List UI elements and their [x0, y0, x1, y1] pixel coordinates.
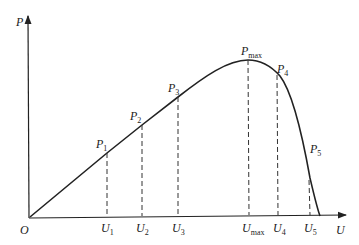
y-axis-label: P — [15, 15, 24, 29]
point-label-p2: P2 — [129, 109, 141, 125]
y-axis — [28, 16, 29, 218]
tick-label-umax: Umax — [242, 221, 264, 237]
tick-label-u1: U1 — [101, 221, 114, 237]
tick-label-u5: U5 — [304, 221, 317, 237]
dropline-u5 — [309, 180, 310, 215]
x-axis-label: U — [336, 223, 346, 237]
x-axis — [29, 215, 346, 218]
dropline-umax — [248, 60, 249, 215]
point-label-p4: P4 — [276, 62, 288, 78]
point-label-p1: P1 — [95, 137, 107, 153]
tick-label-u4: U4 — [273, 221, 286, 237]
origin-label: O — [20, 223, 29, 237]
point-label-pmax: Pmax — [240, 44, 262, 60]
tick-label-u3: U3 — [172, 221, 185, 237]
point-label-p3: P3 — [167, 81, 179, 97]
point-label-p5: P5 — [309, 142, 321, 158]
pu-curve-diagram: P U O P1 P2 P3 Pmax P4 P5 U1 U2 U3 Umax … — [0, 0, 359, 245]
dropline-u4 — [277, 75, 278, 215]
tick-label-u2: U2 — [136, 221, 149, 237]
